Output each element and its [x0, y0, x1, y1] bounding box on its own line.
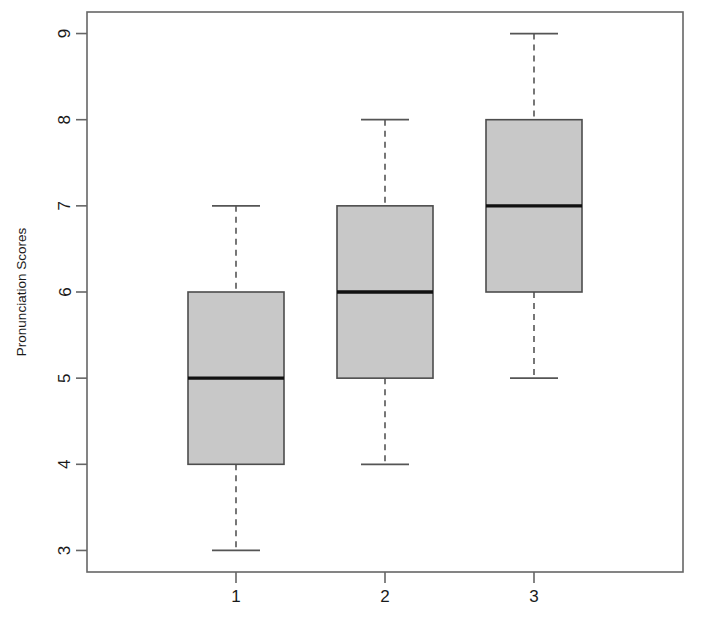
y-axis-tick-label: 7: [56, 201, 75, 210]
y-axis-tick-label: 5: [56, 373, 75, 382]
y-axis-tick-label: 6: [56, 287, 75, 296]
y-axis-tick-label: 8: [56, 115, 75, 124]
x-axis-tick-label: 2: [380, 587, 389, 606]
boxplot-canvas: 3456789 123 Pronunciation Scores: [0, 0, 705, 634]
y-axis-tick-label: 3: [56, 546, 75, 555]
x-axis-tick-label: 3: [529, 587, 538, 606]
y-axis-tick-label: 9: [56, 29, 75, 38]
x-axis-tick-label: 1: [231, 587, 240, 606]
y-axis-title: Pronunciation Scores: [14, 228, 29, 357]
y-axis-tick-label: 4: [56, 460, 75, 469]
boxplot-figure: 3456789 123 Pronunciation Scores: [0, 0, 705, 634]
